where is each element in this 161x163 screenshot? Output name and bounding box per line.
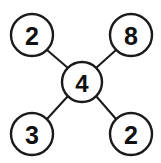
node-bottom-right-label: 2 [124, 121, 138, 149]
edge-center-to-bottom-right [96, 96, 116, 119]
node-top-left-label: 2 [25, 22, 39, 50]
node-bottom-right: 2 [110, 113, 152, 155]
node-bottom-left: 3 [11, 113, 53, 155]
node-bottom-left-label: 3 [25, 121, 39, 149]
node-center-label: 4 [75, 70, 89, 97]
node-top-right-label: 8 [124, 22, 138, 50]
diagram-canvas: 2 8 3 2 4 [0, 0, 161, 163]
edge-center-to-bottom-left [47, 96, 68, 119]
edge-center-to-top-left [47, 50, 68, 68]
node-diagram: 2 8 3 2 4 [0, 0, 161, 163]
edge-center-to-top-right [96, 50, 116, 68]
node-center: 4 [62, 62, 102, 102]
node-top-right: 8 [110, 14, 152, 56]
node-top-left: 2 [11, 14, 53, 56]
